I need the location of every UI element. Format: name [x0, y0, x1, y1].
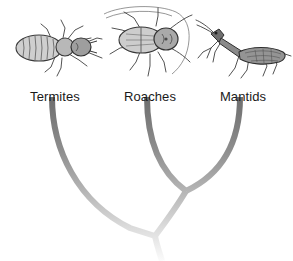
branch-roaches-mantids-stem	[155, 191, 186, 236]
taxon-label-roaches: Roaches	[100, 90, 200, 104]
branch-termites	[52, 97, 155, 236]
branch-root-stem	[155, 236, 162, 261]
praying-mantis-lateral-illustration	[193, 14, 293, 92]
cladogram-figure: Termites	[0, 0, 293, 261]
taxon-label-mantids: Mantids	[193, 90, 293, 104]
termite-dorsal-illustration	[5, 10, 105, 88]
branch-mantids	[186, 97, 240, 191]
taxon-label-termites: Termites	[5, 90, 105, 104]
cockroach-dorsal-illustration	[100, 2, 200, 80]
branch-roaches	[147, 97, 186, 191]
